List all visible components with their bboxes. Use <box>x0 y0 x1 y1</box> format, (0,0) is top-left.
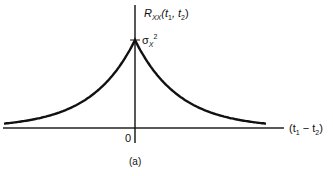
autocorrelation-plot <box>0 0 333 176</box>
figure-caption: (a) <box>129 157 141 167</box>
origin-label: 0 <box>125 133 131 144</box>
peak-label: σX2 <box>142 33 157 48</box>
y-axis-label: RXX(t1, t2) <box>144 8 189 21</box>
x-axis-label: (t1 − t2) <box>289 123 323 136</box>
